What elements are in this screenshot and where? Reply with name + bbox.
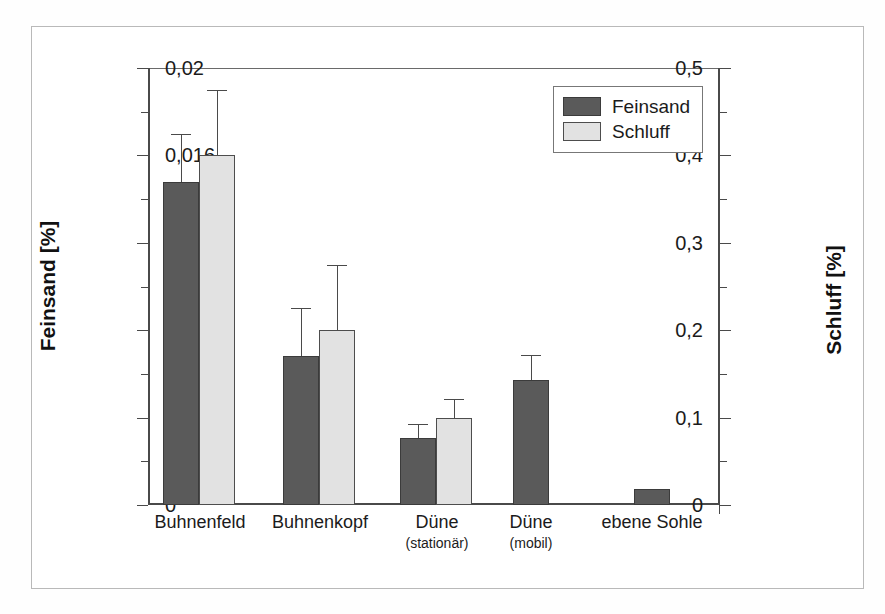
error-bar-cap bbox=[408, 424, 428, 425]
legend-label-feinsand: Feinsand bbox=[612, 96, 690, 118]
chart-legend: Feinsand Schluff bbox=[553, 86, 703, 153]
right-tick-major bbox=[720, 243, 731, 244]
bar-feinsand bbox=[400, 438, 436, 505]
bar-schluff bbox=[436, 418, 472, 505]
x-axis-label: Buhnenfeld bbox=[130, 512, 270, 533]
bar-schluff bbox=[199, 155, 235, 505]
error-bar-cap bbox=[171, 134, 191, 135]
right-tick-major bbox=[720, 418, 731, 419]
bar-feinsand bbox=[163, 182, 199, 505]
x-axis-label: Düne(mobil) bbox=[461, 512, 601, 551]
legend-item-feinsand: Feinsand bbox=[563, 94, 693, 119]
error-bar-cap bbox=[444, 399, 464, 400]
left-axis-line bbox=[148, 68, 150, 505]
left-tick-minor bbox=[141, 287, 148, 288]
legend-swatch-feinsand bbox=[563, 97, 601, 116]
error-bar-stem bbox=[531, 355, 532, 380]
right-tick-minor bbox=[720, 112, 727, 113]
error-bar-stem bbox=[454, 399, 455, 417]
error-bar-cap bbox=[207, 90, 227, 91]
left-tick-major bbox=[137, 155, 148, 156]
right-tick-major bbox=[720, 155, 731, 156]
error-bar-stem bbox=[301, 308, 302, 356]
error-bar-cap bbox=[327, 265, 347, 266]
right-axis-title: Schluff [%] bbox=[822, 245, 846, 355]
plot-top-line bbox=[148, 68, 720, 69]
bar-feinsand bbox=[283, 356, 319, 505]
x-axis-label: ebene Sohle bbox=[582, 512, 722, 533]
right-tick-minor bbox=[720, 461, 727, 462]
left-tick-label: 0,3 bbox=[675, 231, 703, 254]
chart-figure: Feinsand [%] Schluff [%] 00,10,20,30,40,… bbox=[0, 0, 885, 614]
bar-schluff bbox=[319, 330, 355, 505]
right-tick-minor bbox=[720, 199, 727, 200]
bar-feinsand bbox=[634, 489, 670, 505]
right-tick-minor bbox=[720, 374, 727, 375]
right-tick-major bbox=[720, 505, 731, 506]
error-bar-stem bbox=[337, 265, 338, 331]
error-bar-stem bbox=[418, 424, 419, 438]
x-axis-label-sub: (mobil) bbox=[461, 535, 601, 551]
left-tick-major bbox=[137, 243, 148, 244]
legend-item-schluff: Schluff bbox=[563, 119, 693, 144]
left-tick-label: 0,5 bbox=[675, 57, 703, 80]
error-bar-cap bbox=[521, 355, 541, 356]
bar-feinsand bbox=[513, 380, 549, 505]
x-axis-label-main: Düne bbox=[415, 512, 458, 532]
left-tick-major bbox=[137, 418, 148, 419]
x-axis-label-main: Buhnenfeld bbox=[154, 512, 245, 532]
legend-swatch-schluff bbox=[563, 122, 601, 141]
x-axis-label-main: Buhnenkopf bbox=[272, 512, 368, 532]
error-bar-cap bbox=[291, 308, 311, 309]
left-axis-title: Feinsand [%] bbox=[36, 221, 60, 352]
legend-label-schluff: Schluff bbox=[612, 121, 670, 143]
x-axis-label-main: Düne bbox=[509, 512, 552, 532]
right-tick-minor bbox=[720, 287, 727, 288]
right-tick-label: 0,02 bbox=[165, 57, 204, 80]
left-tick-label: 0,1 bbox=[675, 406, 703, 429]
right-tick-major bbox=[720, 330, 731, 331]
left-tick-minor bbox=[141, 112, 148, 113]
error-bar-stem bbox=[217, 90, 218, 156]
left-tick-minor bbox=[141, 374, 148, 375]
right-tick-major bbox=[720, 68, 731, 69]
left-tick-major bbox=[137, 330, 148, 331]
left-tick-major bbox=[137, 505, 148, 506]
left-tick-major bbox=[137, 68, 148, 69]
left-tick-label: 0,2 bbox=[675, 319, 703, 342]
left-tick-minor bbox=[141, 461, 148, 462]
left-tick-minor bbox=[141, 199, 148, 200]
error-bar-stem bbox=[181, 134, 182, 182]
x-axis-label-main: ebene Sohle bbox=[601, 512, 702, 532]
